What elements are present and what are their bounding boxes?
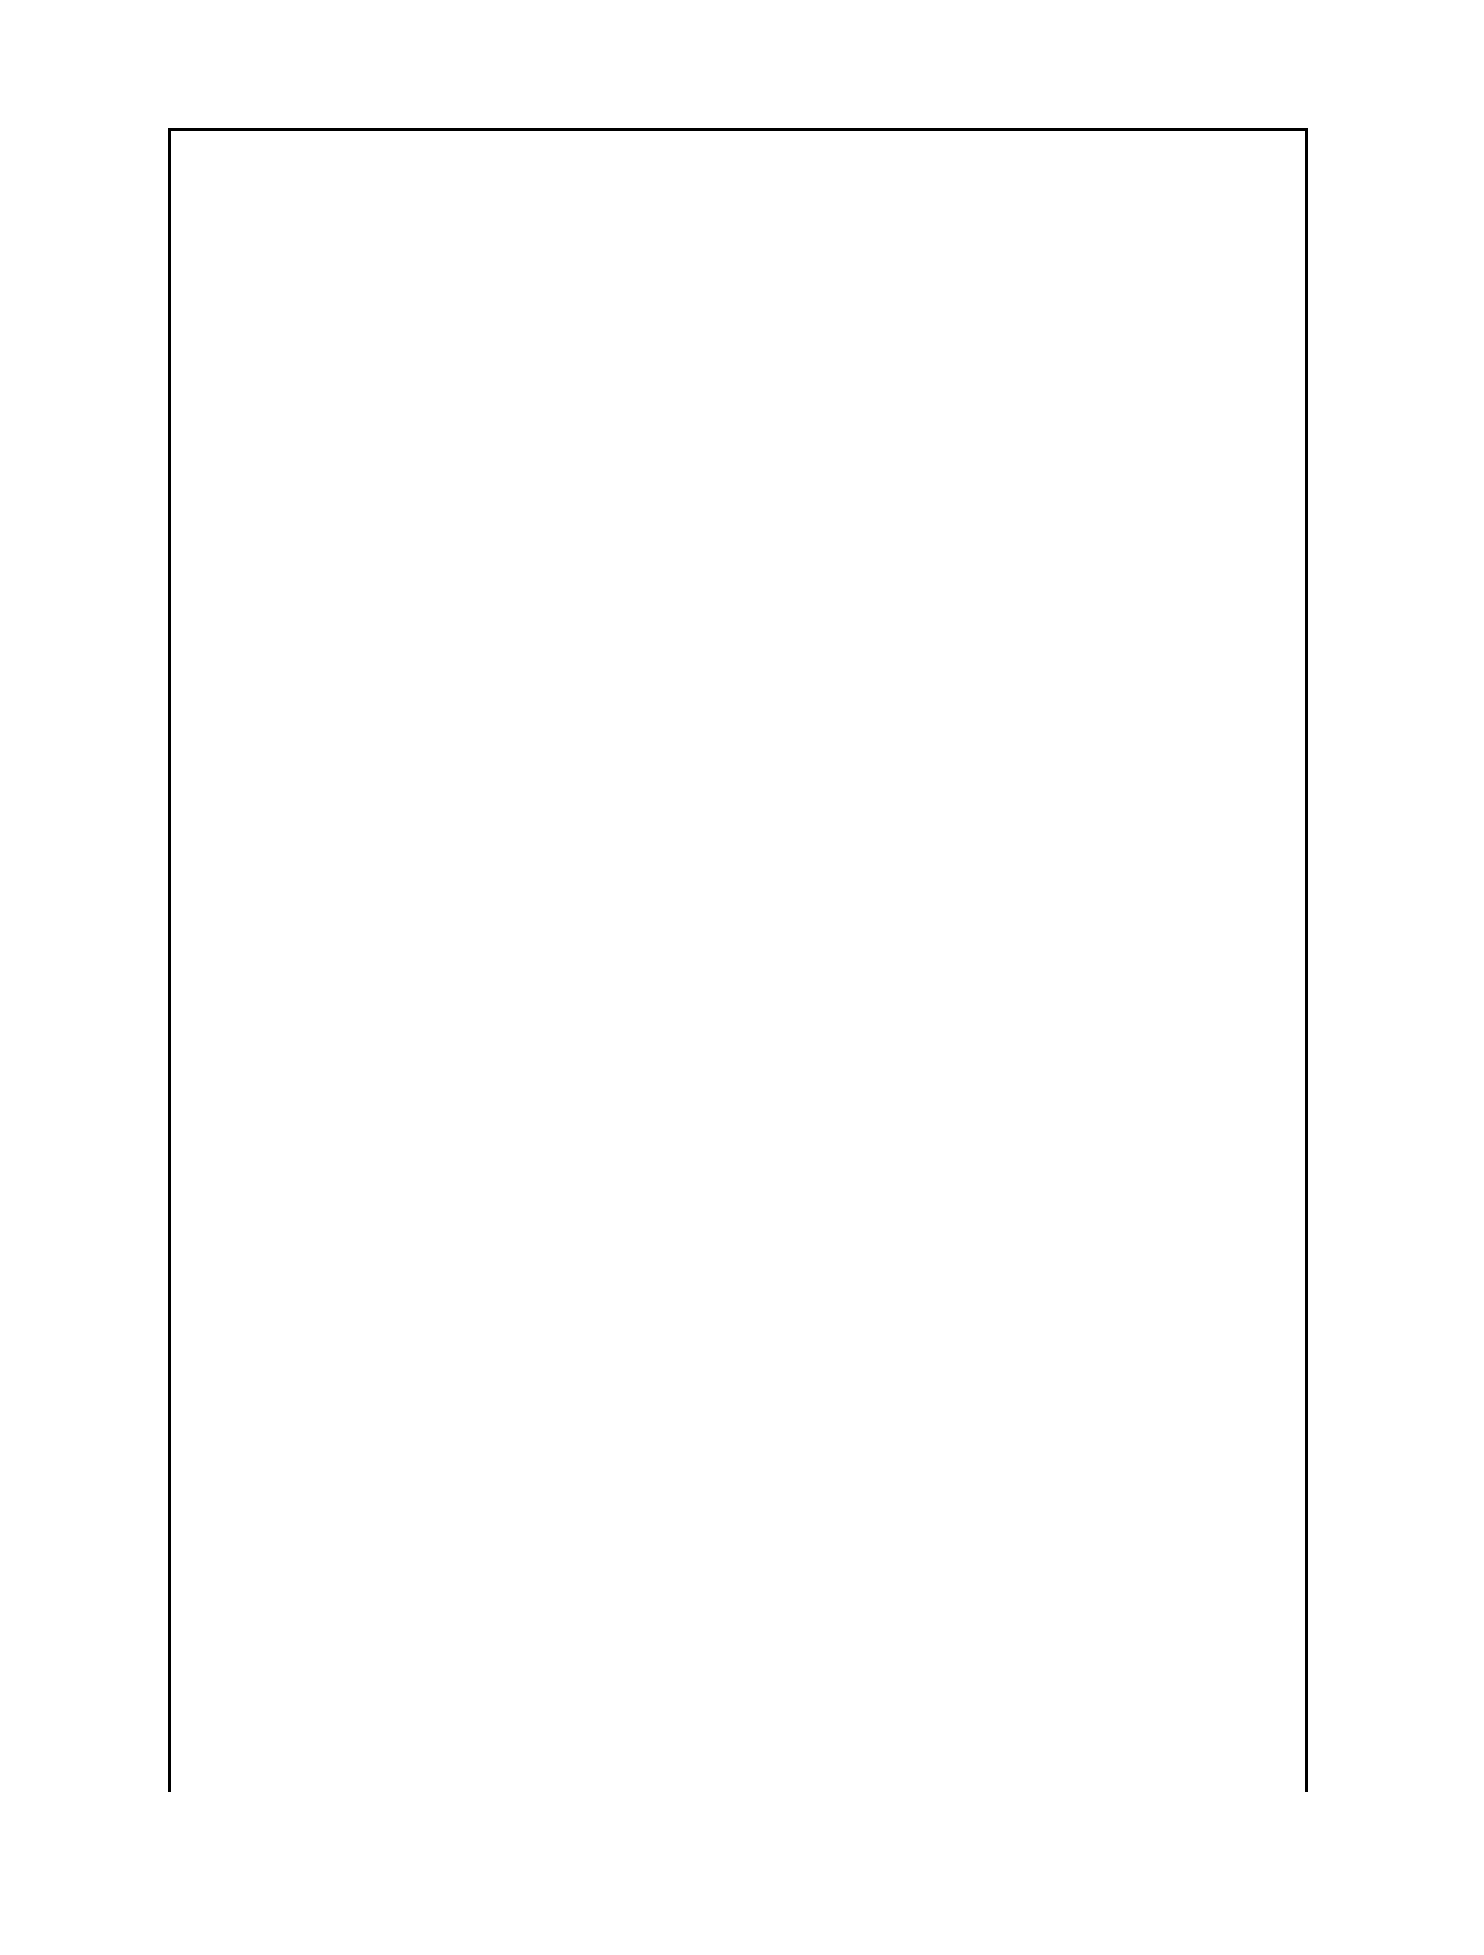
plot-area [168, 128, 1308, 1792]
pie-chart-svg [376, 271, 1016, 631]
pie-chart-inset [376, 271, 1016, 631]
chart-page [0, 0, 1484, 1955]
